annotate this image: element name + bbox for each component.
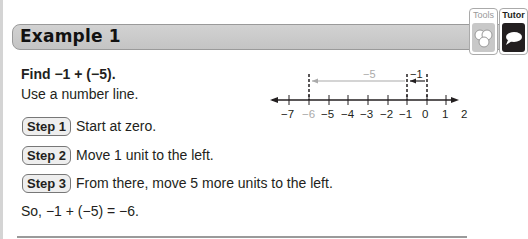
step-2-badge: Step 2	[22, 146, 71, 165]
step-1-badge: Step 1	[22, 117, 71, 136]
tools-icon	[472, 23, 495, 52]
tools-button[interactable]: Tools	[469, 8, 498, 55]
result-text: So, −1 + (−5) = −6.	[21, 203, 139, 219]
step-2-text: Move 1 unit to the left.	[76, 147, 214, 163]
tools-label: Tools	[470, 10, 497, 20]
speech-bubble-icon	[502, 23, 525, 52]
bottom-rule	[17, 236, 467, 238]
step-3-text: From there, move 5 more units to the lef…	[76, 175, 333, 191]
left-margin-rule	[0, 0, 3, 239]
tutor-button[interactable]: Tutor	[499, 8, 528, 55]
example-title: Example 1	[20, 26, 121, 46]
problem-statement: Find −1 + (−5).	[21, 66, 116, 82]
step-1-text: Start at zero.	[76, 118, 156, 134]
instruction-text: Use a number line.	[21, 86, 139, 102]
arrow-label-large: −5	[363, 68, 376, 80]
step-3-badge: Step 3	[22, 174, 71, 193]
tutor-label: Tutor	[500, 10, 527, 20]
arrow-label-small: −1	[410, 68, 423, 80]
